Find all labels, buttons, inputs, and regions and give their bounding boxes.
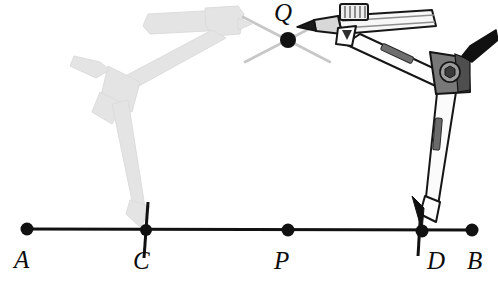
point-label-C: C [133,248,150,273]
point-dot-P [282,224,295,237]
compass-construction-figure: A C P D B Q [0,0,498,289]
point-label-B: B [467,248,482,273]
point-dot-B [466,224,479,237]
ghost-hinge-knob [70,56,110,78]
point-dot-A [21,223,34,236]
compass-handle-knob [462,30,498,62]
line-AB [27,229,472,230]
hinge-screw-hex-icon [445,66,455,78]
pencil-clamp [340,4,368,20]
compass-ghost [70,6,252,228]
point-label-D: D [427,248,445,273]
pencil-graphite-tip [297,20,316,31]
point-dot-D [416,225,429,238]
point-dot-C [140,224,152,236]
point-label-Q: Q [274,0,292,25]
point-dot-Q [280,32,296,48]
compass-active [297,4,498,231]
construction-drawing [0,0,498,289]
point-label-P: P [274,248,289,273]
point-label-A: A [14,247,29,272]
